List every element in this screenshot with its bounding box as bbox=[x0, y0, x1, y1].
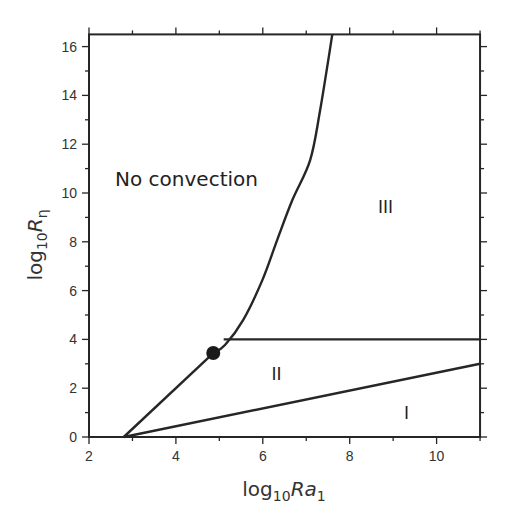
region-label-i: I bbox=[404, 403, 409, 423]
x-axis-title: log10Ra1 bbox=[242, 477, 325, 504]
boundary-I-II bbox=[124, 364, 480, 437]
phase-boundaries bbox=[124, 34, 480, 437]
x-tick-label: 6 bbox=[259, 448, 267, 464]
axis-ticks bbox=[82, 27, 487, 444]
y-tick-label: 10 bbox=[61, 185, 77, 201]
region-labels: No convectionIIIIII bbox=[115, 167, 409, 423]
y-tick-label: 0 bbox=[69, 429, 77, 445]
region-label-ii: II bbox=[271, 364, 281, 384]
y-tick-label: 6 bbox=[69, 283, 77, 299]
y-axis-title: log10Rη bbox=[23, 209, 50, 280]
triple-point-marker bbox=[206, 346, 220, 360]
y-tick-label: 12 bbox=[61, 136, 77, 152]
region-label-no-convection: No convection bbox=[115, 167, 258, 191]
region-label-iii: III bbox=[378, 197, 393, 217]
y-tick-label: 4 bbox=[69, 331, 77, 347]
boundary-no-convection-lower bbox=[124, 353, 214, 437]
triple-point bbox=[206, 346, 220, 360]
x-tick-label: 4 bbox=[172, 448, 180, 464]
phase-diagram-chart: 2468100246810121416 No convectionIIIIII … bbox=[0, 0, 507, 525]
x-tick-label: 10 bbox=[429, 448, 445, 464]
y-tick-label: 8 bbox=[69, 234, 77, 250]
boundary-no-convection-III bbox=[213, 34, 332, 353]
y-tick-label: 14 bbox=[61, 87, 77, 103]
x-tick-label: 8 bbox=[346, 448, 354, 464]
x-tick-label: 2 bbox=[85, 448, 93, 464]
axis-tick-labels: 2468100246810121416 bbox=[61, 39, 444, 464]
y-tick-label: 2 bbox=[69, 380, 77, 396]
y-tick-label: 16 bbox=[61, 39, 77, 55]
